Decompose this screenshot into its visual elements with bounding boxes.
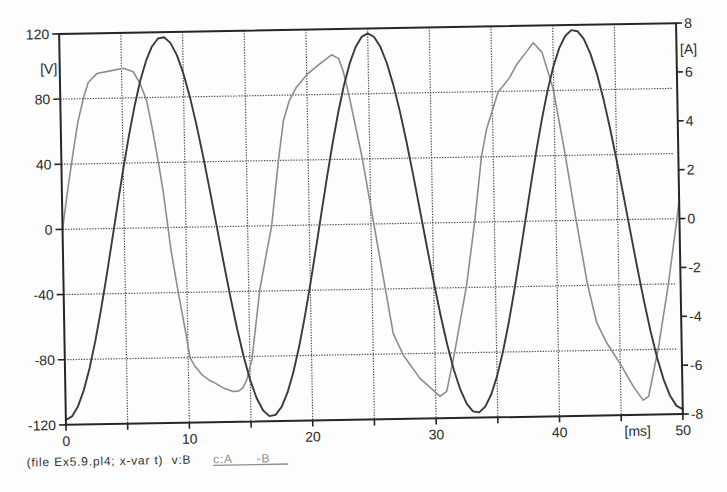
y-right-axis-tick-label: 8 <box>684 15 692 31</box>
y-right-axis-tick-label: -6 <box>690 357 703 373</box>
x-axis-unit-label: [ms] <box>624 423 651 439</box>
y-left-axis-tick-label: 120 <box>26 26 50 42</box>
legend-item-voltage-label: v:B <box>171 453 191 467</box>
x-axis-tick-label: 0 <box>62 433 70 449</box>
legend-file-info: (file Ex5.9.pl4; x-var t) <box>26 453 163 469</box>
y-left-axis-tick-label: 80 <box>35 91 51 107</box>
x-axis-tick-label: 50 <box>675 422 691 438</box>
y-left-axis-tick-label: 40 <box>36 156 52 172</box>
y-right-axis-tick-label: -4 <box>689 308 702 324</box>
y-right-axis-unit-label: [A] <box>680 41 697 57</box>
y-left-axis-tick-label: 0 <box>45 222 53 238</box>
y-left-axis-tick-label: -120 <box>28 417 57 433</box>
y-left-axis-tick-label: -40 <box>33 287 54 303</box>
y-left-axis-unit-label: [V] <box>40 60 57 76</box>
y-right-axis-tick-label: -2 <box>688 259 701 275</box>
x-axis-tick-label: 30 <box>428 426 444 442</box>
x-axis-tick-label: 10 <box>182 431 198 447</box>
y-right-axis-tick-label: 0 <box>687 210 695 226</box>
y-right-axis-tick-label: 4 <box>686 113 694 129</box>
x-axis-tick-label: 20 <box>305 428 321 444</box>
y-right-axis-tick-label: 6 <box>685 64 693 80</box>
legend-item-current-label: c:A <box>213 452 233 466</box>
x-axis-tick-label: 40 <box>552 424 568 440</box>
legend-item-current-label-suffix: -B <box>256 451 270 465</box>
y-right-axis-tick-label: -8 <box>691 406 704 422</box>
chart: 010203040[ms]5012080400-40-80-12086420-2… <box>0 0 727 492</box>
y-left-axis-tick-label: -80 <box>34 352 55 368</box>
y-right-axis-tick-label: 2 <box>686 161 694 177</box>
